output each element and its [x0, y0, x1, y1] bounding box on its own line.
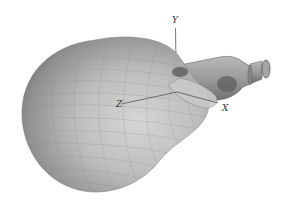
- radiation-pattern-figure: [0, 0, 290, 205]
- y-axis-label: Y: [172, 16, 178, 25]
- feed-ring: [248, 65, 252, 85]
- lobe-notch-shadow: [172, 67, 188, 77]
- main-lobe: [20, 36, 217, 193]
- x-axis-label: X: [222, 104, 228, 113]
- z-axis-label: Z: [116, 100, 122, 109]
- feed-aperture: [262, 60, 270, 78]
- feed-horn-shadow: [217, 76, 237, 92]
